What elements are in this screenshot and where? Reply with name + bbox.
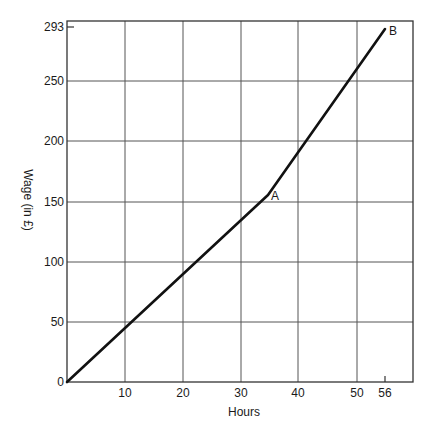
y-tick-150: 150	[44, 195, 64, 209]
x-tick-50: 50	[350, 386, 364, 400]
y-tick-100: 100	[44, 255, 64, 269]
x-tick-30: 30	[234, 386, 248, 400]
wage-line	[67, 29, 385, 382]
x-tick-20: 20	[176, 386, 190, 400]
x-tick-40: 40	[291, 386, 305, 400]
x-tick-56: 56	[378, 386, 392, 400]
y-tick-250: 250	[44, 74, 64, 88]
point-a-label: A	[271, 189, 279, 203]
point-b-label: B	[389, 24, 397, 38]
x-axis-title: Hours	[228, 405, 260, 419]
x-tick-10: 10	[118, 386, 132, 400]
y-tick-labels: 0 50 100 150 200 250 293	[44, 20, 64, 389]
x-tick-labels: 10 20 30 40 50 56	[118, 386, 392, 400]
y-tick-0: 0	[57, 375, 64, 389]
y-axis-title: Wage (in £)	[21, 169, 35, 231]
horizontal-gridlines	[67, 81, 413, 322]
y-tick-50: 50	[51, 315, 65, 329]
y-tick-200: 200	[44, 134, 64, 148]
wage-hours-chart: A B 0 50 100 150 200 250 293 10 20 30 40…	[0, 0, 428, 430]
y-tick-293: 293	[44, 20, 64, 34]
